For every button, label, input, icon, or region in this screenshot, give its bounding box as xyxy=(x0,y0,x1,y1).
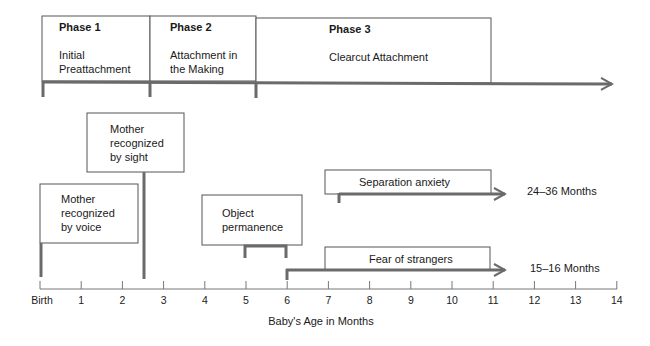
sight-line-3: by sight xyxy=(110,151,148,163)
strangers-range: 15–16 Months xyxy=(530,262,600,274)
sight-line-1: Mother xyxy=(110,123,145,135)
voice-line-3: by voice xyxy=(61,221,101,233)
phase-2-title: Phase 2 xyxy=(170,21,212,33)
axis-title: Baby's Age in Months xyxy=(268,315,374,327)
phase-1-label: Initial xyxy=(59,49,85,61)
phase-3-box: Phase 3 Clearcut Attachment xyxy=(256,18,491,83)
phase-3-title: Phase 3 xyxy=(329,23,371,35)
axis-tick-label: 6 xyxy=(284,294,290,306)
strangers-label: Fear of strangers xyxy=(369,253,453,265)
phase-2-label: Attachment in xyxy=(170,49,237,61)
axis-tick-label: Birth xyxy=(31,294,53,306)
phase-1-label-2: Preattachment xyxy=(59,63,131,75)
phase-timeline-arrow xyxy=(42,82,612,84)
axis-tick-label: 4 xyxy=(202,294,208,306)
voice-line-2: recognized xyxy=(61,207,115,219)
axis-tick-label: 10 xyxy=(446,294,458,306)
object-line-2: permanence xyxy=(222,221,283,233)
milestone-separation-anxiety: Separation anxiety 24–36 Months xyxy=(325,170,597,203)
phase-2-label-2: the Making xyxy=(170,63,224,75)
phase-1-title: Phase 1 xyxy=(59,21,101,33)
axis-tick-label: 9 xyxy=(408,294,414,306)
axis-tick-label: 7 xyxy=(325,294,331,306)
object-permanence-bracket xyxy=(245,246,286,258)
axis-tick-label: 5 xyxy=(243,294,249,306)
sight-line-2: recognized xyxy=(110,137,164,149)
axis-tick-label: 1 xyxy=(78,294,84,306)
milestone-voice: Mother recognized by voice xyxy=(40,184,138,277)
axis-tick-label: 12 xyxy=(529,294,541,306)
axis-tick-label: 3 xyxy=(161,294,167,306)
milestone-object-permanence: Object permanence xyxy=(202,195,302,258)
phase-2-box: Phase 2 Attachment in the Making xyxy=(150,16,256,81)
attachment-timeline-diagram: Phase 1 Initial Preattachment Phase 2 At… xyxy=(0,0,650,346)
axis-tick-label: 11 xyxy=(488,294,499,306)
axis-tick-label: 13 xyxy=(570,294,582,306)
axis-tick-label: 14 xyxy=(611,294,623,306)
axis-tick-label: 2 xyxy=(119,294,125,306)
object-line-1: Object xyxy=(222,207,254,219)
axis-ticks: Birth1234567891011121314 xyxy=(31,281,623,306)
phase-1-box: Phase 1 Initial Preattachment xyxy=(42,16,150,81)
milestone-fear-of-strangers: Fear of strangers 15–16 Months xyxy=(286,247,600,280)
separation-label: Separation anxiety xyxy=(359,176,451,188)
axis-tick-label: 8 xyxy=(367,294,373,306)
phase-3-label: Clearcut Attachment xyxy=(329,51,428,63)
voice-line-1: Mother xyxy=(61,193,96,205)
separation-range: 24–36 Months xyxy=(527,185,597,197)
age-axis: Birth1234567891011121314 Baby's Age in M… xyxy=(31,281,623,327)
